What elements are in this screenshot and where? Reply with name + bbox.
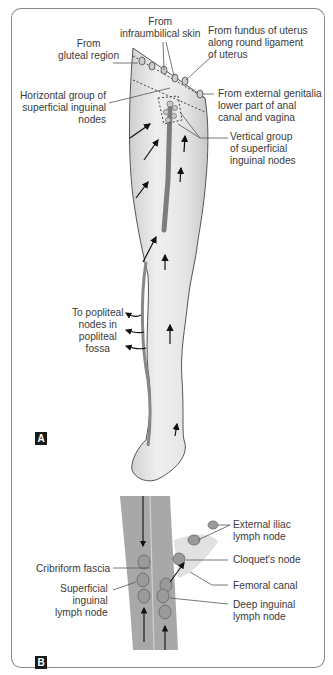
label-deep-inguinal: Deep inguinal lymph node xyxy=(233,599,295,623)
label-femoral-canal: Femoral canal xyxy=(233,580,298,592)
label-vertical-group: Vertical group of superficial inguinal n… xyxy=(230,131,296,167)
label-infraumbilical-skin: From infraumbilical skin xyxy=(120,16,200,40)
label-fundus-uterus: From fundus of uterus along round ligame… xyxy=(208,25,308,61)
label-superficial-inguinal: Superficial inguinal lymph node xyxy=(55,583,108,619)
label-cloquets-node: Cloquet's node xyxy=(233,554,301,566)
label-external-iliac: External iliac lymph node xyxy=(233,519,291,543)
panel-a-badge: A xyxy=(35,432,47,445)
label-gluteal-region: From gluteal region xyxy=(58,38,119,62)
fascia-section xyxy=(120,496,218,650)
label-popliteal-nodes: To popliteal nodes in popliteal fossa xyxy=(72,307,124,355)
panel-b-badge: B xyxy=(35,656,47,669)
label-horizontal-group: Horizontal group of superficial inguinal… xyxy=(20,90,106,126)
label-cribriform-fascia: Cribriform fascia xyxy=(36,563,110,575)
label-external-genitalia: From external genitalia lower part of an… xyxy=(218,88,322,124)
